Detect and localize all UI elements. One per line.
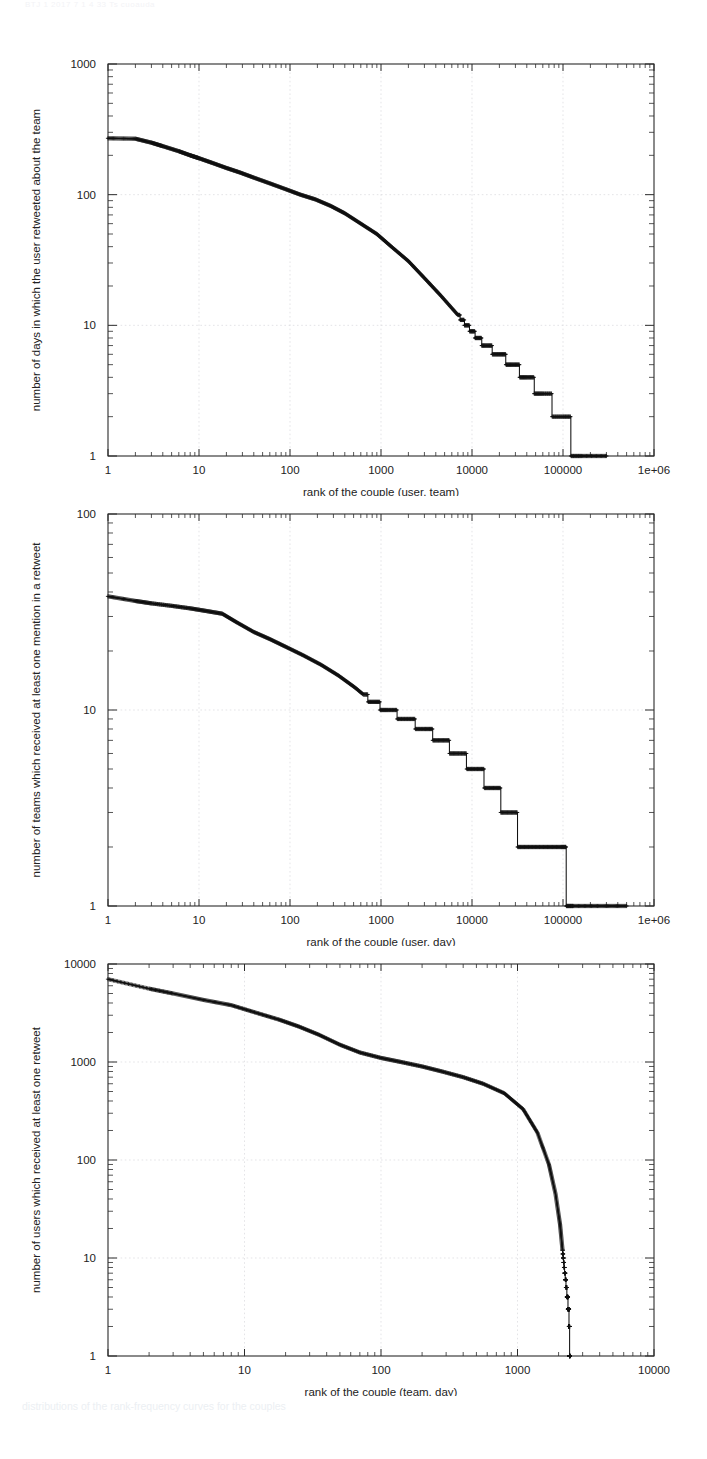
x-tick-label: 10000 bbox=[638, 1364, 670, 1376]
fig-rank-user-day-markers-0 bbox=[106, 594, 629, 908]
figure-rank-user-day: 1101001000100001000001e+06110100rank of … bbox=[0, 496, 707, 946]
y-tick-label: 1000 bbox=[70, 58, 96, 70]
fig-rank-team-day-curve-0 bbox=[108, 979, 570, 1356]
y-tick-label: 100 bbox=[77, 189, 96, 201]
fig-rank-user-day-xlabel: rank of the couple (user, day) bbox=[307, 936, 456, 946]
y-tick-label: 100 bbox=[77, 1154, 96, 1166]
x-tick-label: 10 bbox=[193, 464, 206, 476]
fig-rank-user-team-xlabel: rank of the couple (user, team) bbox=[303, 486, 459, 496]
x-tick-label: 100 bbox=[371, 1364, 390, 1376]
fig-rank-user-team-ylabel: number of days in which the user retweet… bbox=[30, 109, 42, 411]
figure-rank-team-day: 110100100010000110100100010000rank of th… bbox=[0, 946, 707, 1396]
y-tick-label: 10 bbox=[83, 319, 96, 331]
x-tick-label: 1e+06 bbox=[638, 914, 670, 926]
fig-rank-team-day-series bbox=[106, 977, 572, 1358]
x-tick-label: 10000 bbox=[456, 914, 488, 926]
x-tick-label: 100000 bbox=[544, 464, 582, 476]
fig-rank-user-day-curve-0 bbox=[108, 596, 627, 906]
figure-page: BTJ 1 2017 7 1 4 33 Ts cuoauda 110100100… bbox=[0, 0, 707, 1459]
fig-rank-team-day-markers-0 bbox=[106, 977, 572, 1358]
fig-rank-team-day-gridlines bbox=[108, 964, 654, 1356]
fig-rank-team-day-xlabel: rank of the couple (team, day) bbox=[305, 1386, 458, 1396]
fig-rank-team-day-svg: 110100100010000110100100010000rank of th… bbox=[0, 946, 707, 1396]
y-tick-label: 100 bbox=[77, 508, 96, 520]
fig-rank-user-team-markers-0 bbox=[106, 136, 609, 458]
fig-rank-user-team-curve-0 bbox=[108, 138, 606, 456]
fig-rank-team-day-tick-labels: 110100100010000110100100010000 bbox=[64, 958, 670, 1376]
y-tick-label: 1 bbox=[90, 450, 96, 462]
x-tick-label: 1 bbox=[105, 464, 111, 476]
y-tick-label: 1 bbox=[90, 1350, 96, 1362]
fig-rank-user-team-gridlines bbox=[108, 64, 654, 456]
x-tick-label: 100000 bbox=[544, 914, 582, 926]
fig-rank-user-day-tick-labels: 1101001000100001000001e+06110100 bbox=[77, 508, 670, 926]
x-tick-label: 10 bbox=[193, 914, 206, 926]
y-tick-label: 10 bbox=[83, 1252, 96, 1264]
x-tick-label: 1 bbox=[105, 914, 111, 926]
fig-rank-user-day-series bbox=[106, 594, 629, 908]
x-tick-label: 10 bbox=[238, 1364, 251, 1376]
fig-rank-user-day-svg: 1101001000100001000001e+06110100rank of … bbox=[0, 496, 707, 946]
x-tick-label: 1000 bbox=[368, 464, 394, 476]
x-tick-label: 1 bbox=[105, 1364, 111, 1376]
fig-rank-user-team-tick-labels: 1101001000100001000001e+061101001000 bbox=[70, 58, 670, 476]
x-tick-label: 10000 bbox=[456, 464, 488, 476]
fig-rank-user-team-series bbox=[106, 136, 609, 458]
page-header-text: BTJ 1 2017 7 1 4 33 Ts cuoauda bbox=[25, 0, 495, 10]
x-tick-label: 100 bbox=[280, 464, 299, 476]
x-tick-label: 1000 bbox=[505, 1364, 531, 1376]
fig-rank-user-team-svg: 1101001000100001000001e+061101001000rank… bbox=[0, 46, 707, 496]
x-tick-label: 1e+06 bbox=[638, 464, 670, 476]
fig-rank-user-day-ylabel: number of teams which received at least … bbox=[30, 542, 42, 878]
figure-caption: distributions of the rank-frequency curv… bbox=[22, 1400, 702, 1412]
y-tick-label: 1000 bbox=[70, 1056, 96, 1068]
fig-rank-team-day-ylabel: number of users which received at least … bbox=[30, 1026, 42, 1293]
x-tick-label: 1000 bbox=[368, 914, 394, 926]
figure-rank-user-team: 1101001000100001000001e+061101001000rank… bbox=[0, 46, 707, 496]
y-tick-label: 10 bbox=[83, 704, 96, 716]
y-tick-label: 10000 bbox=[64, 958, 96, 970]
y-tick-label: 1 bbox=[90, 900, 96, 912]
x-tick-label: 100 bbox=[280, 914, 299, 926]
